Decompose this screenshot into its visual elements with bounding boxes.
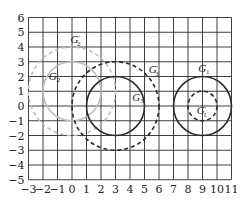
- y-tick-label: 0: [18, 100, 25, 113]
- grid: [29, 18, 232, 180]
- x-tick-label: 4: [127, 183, 134, 196]
- x-tick-label: 11: [225, 183, 239, 196]
- y-tick-label: 1: [18, 85, 25, 98]
- x-axis-tick-labels: −3−2−101234567891011: [20, 183, 238, 196]
- x-tick-label: 7: [170, 183, 177, 196]
- x-tick-label: 6: [156, 183, 163, 196]
- x-tick-label: −1: [49, 183, 65, 196]
- y-tick-label: 6: [18, 12, 25, 25]
- x-tick-label: 5: [141, 183, 148, 196]
- x-tick-label: 8: [185, 183, 192, 196]
- label-g2: G2: [49, 70, 61, 84]
- y-tick-label: 2: [18, 71, 25, 84]
- x-tick-label: 0: [69, 183, 76, 196]
- y-tick-label: 3: [18, 56, 25, 69]
- x-tick-label: 2: [98, 183, 105, 196]
- label-g1-prime: G′1: [197, 104, 207, 119]
- y-tick-label: −3: [8, 144, 24, 157]
- x-tick-label: 9: [199, 183, 206, 196]
- label-g1: G1: [198, 62, 210, 76]
- y-tick-label: −2: [8, 130, 24, 143]
- y-tick-label: −4: [8, 159, 24, 172]
- y-axis-tick-labels: 6543210−1−2−3−4−5: [8, 12, 24, 187]
- coordinate-diagram: 6543210−1−2−3−4−5 −3−2−101234567891011 G…: [0, 0, 245, 208]
- y-tick-label: 4: [18, 41, 25, 54]
- y-tick-label: 5: [18, 26, 25, 39]
- x-tick-label: 3: [112, 183, 119, 196]
- label-g3-prime: G′3: [149, 63, 159, 78]
- x-tick-label: 10: [210, 183, 224, 196]
- y-tick-label: −1: [8, 115, 24, 128]
- x-tick-label: 1: [83, 183, 90, 196]
